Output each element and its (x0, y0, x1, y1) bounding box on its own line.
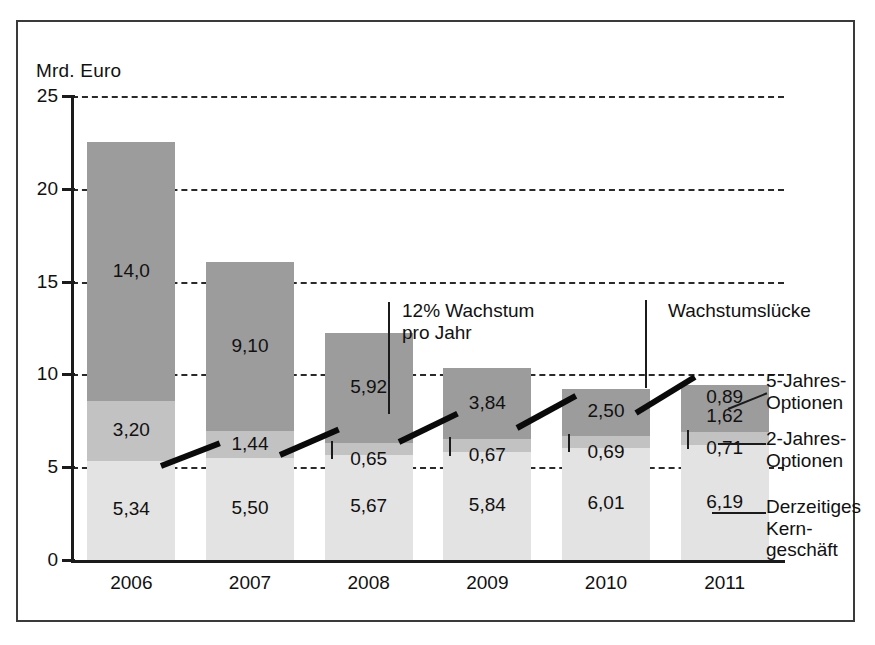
y-tick-label-25: 25 (14, 86, 58, 105)
y-tick-15 (62, 281, 75, 284)
bar-gap-tick-2009 (449, 437, 451, 455)
x-axis-label-2007: 2007 (206, 572, 294, 594)
y-tick-10 (62, 373, 75, 376)
x-axis-label-2011: 2011 (681, 572, 769, 594)
bar-value-label-2006-1: 3,20 (87, 420, 175, 439)
gridline-20 (72, 189, 784, 191)
bar-value-label-2009-0: 5,84 (443, 495, 531, 514)
annotation-rule-growth (388, 302, 390, 414)
y-tick-label-15: 15 (14, 272, 58, 291)
y-tick-label-5: 5 (14, 457, 58, 476)
bar-value-label-2010-1: 0,69 (562, 442, 650, 461)
y-tick-5 (62, 466, 75, 469)
chart-root: Mrd. Euro 0510152025 5,343,2014,05,501,4… (0, 0, 875, 645)
y-axis-unit-label: Mrd. Euro (36, 60, 121, 82)
bar-value-label-2011-0: 6,19 (681, 492, 769, 511)
x-axis-label-2009: 2009 (443, 572, 531, 594)
x-axis-label-2006: 2006 (87, 572, 175, 594)
gridline-10 (72, 374, 784, 376)
legend-item-derzeitiges-kerngeschaeft: Derzeitiges Kern- geschäft (766, 496, 861, 561)
bar-value-label-2008-2: 5,92 (325, 377, 413, 396)
gridline-15 (72, 282, 784, 284)
y-tick-label-20: 20 (14, 179, 58, 198)
annotation-growth-gap: Wachstumslücke (668, 300, 811, 322)
bar-value-label-2008-1: 0,65 (325, 449, 413, 468)
bar-value-label-2010-0: 6,01 (562, 493, 650, 512)
bar-value-label-2006-0: 5,34 (87, 499, 175, 518)
bar-value-label-2007-2: 9,10 (206, 336, 294, 355)
bar-value-label-2008-0: 5,67 (325, 496, 413, 515)
x-axis-label-2010: 2010 (562, 572, 650, 594)
gridline-5 (72, 467, 784, 469)
y-tick-20 (62, 188, 75, 191)
y-axis-line (71, 96, 74, 562)
legend-item-5-jahres-optionen: 5-Jahres- Optionen (766, 370, 846, 413)
bar-value-label-2009-2: 3,84 (443, 393, 531, 412)
y-tick-label-10: 10 (14, 364, 58, 383)
x-axis-line (71, 560, 785, 563)
legend-leader-2-jahres-optionen (718, 443, 766, 445)
bar-gap-tick-2008 (331, 441, 333, 459)
bar-value-label-2006-2: 14,0 (87, 261, 175, 280)
plot-area: Mrd. Euro 0510152025 5,343,2014,05,501,4… (0, 0, 875, 645)
legend-leader-derzeitiges-kerngeschaeft (712, 512, 766, 514)
bar-value-label-2009-1: 0,67 (443, 445, 531, 464)
annotation-growth-rate: 12% Wachstum pro Jahr (402, 300, 534, 343)
annotation-rule-gap (645, 300, 647, 388)
bar-value-label-2007-0: 5,50 (206, 498, 294, 517)
y-tick-label-0: 0 (14, 550, 58, 569)
gridline-25 (72, 96, 784, 98)
bar-gap-tick-2011 (687, 430, 689, 449)
bar-value-label-2011-1: 0,71 (681, 438, 769, 457)
y-tick-25 (62, 95, 75, 98)
bar-gap-tick-2010 (568, 434, 570, 453)
x-axis-label-2008: 2008 (325, 572, 413, 594)
bar-value-label-2011-2: 1,62 (681, 406, 769, 425)
legend-item-2-jahres-optionen: 2-Jahres- Optionen (766, 428, 846, 471)
